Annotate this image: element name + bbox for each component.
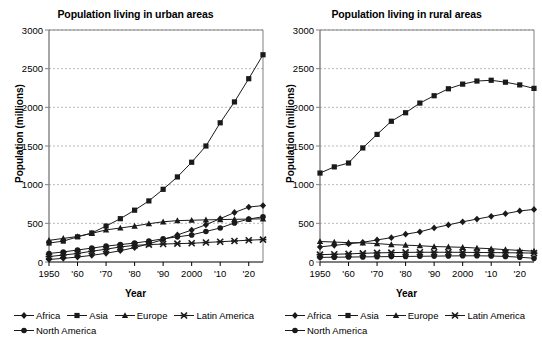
legend-label-latin-america: Latin America <box>467 308 525 323</box>
legend-row-2: North America <box>14 323 270 338</box>
legend-label-asia: Asia <box>360 308 378 323</box>
legend-row-1: Africa Asia Europe Latin America <box>14 308 270 323</box>
triangle-icon <box>386 310 406 321</box>
svg-text:500: 500 <box>298 218 314 229</box>
svg-text:2000: 2000 <box>452 268 473 279</box>
svg-text:'10: '10 <box>214 268 226 279</box>
legend-item-asia: Asia <box>67 308 107 323</box>
legend-label-asia: Asia <box>89 308 107 323</box>
svg-text:'20: '20 <box>243 268 255 279</box>
legend-label-europe: Europe <box>137 308 168 323</box>
plot-area-rural: 0500100015002000250030001950'60'70'80'90… <box>271 0 542 290</box>
cross-x-icon <box>445 310 465 321</box>
legend-item-europe: Europe <box>386 308 439 323</box>
legend-label-europe: Europe <box>408 308 439 323</box>
svg-text:'60: '60 <box>342 268 354 279</box>
svg-text:2500: 2500 <box>293 63 314 74</box>
svg-text:'70: '70 <box>100 268 112 279</box>
legend-item-europe: Europe <box>115 308 168 323</box>
svg-text:3000: 3000 <box>293 25 314 36</box>
legend-item-asia: Asia <box>338 308 378 323</box>
cross-x-icon <box>174 310 194 321</box>
svg-text:1950: 1950 <box>309 268 330 279</box>
legend-label-africa: Africa <box>36 308 60 323</box>
plot-area-urban: 0500100015002000250030001950'60'70'80'90… <box>0 0 271 290</box>
svg-text:500: 500 <box>27 218 43 229</box>
legend-item-latin-america: Latin America <box>174 308 254 323</box>
diamond-icon <box>285 310 305 321</box>
svg-text:1950: 1950 <box>38 268 59 279</box>
legend-row-1: Africa Asia Europe Latin America <box>285 308 541 323</box>
svg-text:2500: 2500 <box>22 63 43 74</box>
svg-text:'80: '80 <box>128 268 140 279</box>
chart-page: Population living in urban areas Populat… <box>0 0 542 349</box>
svg-text:'90: '90 <box>157 268 169 279</box>
legend-item-africa: Africa <box>14 308 60 323</box>
chart-panel-urban: Population living in urban areas Populat… <box>0 0 271 349</box>
svg-text:1500: 1500 <box>22 141 43 152</box>
legend-label-africa: Africa <box>307 308 331 323</box>
legend-item-north-america: North America <box>285 323 367 338</box>
svg-text:'80: '80 <box>399 268 411 279</box>
svg-text:2000: 2000 <box>293 102 314 113</box>
legend-label-latin-america: Latin America <box>196 308 254 323</box>
legend-item-latin-america: Latin America <box>445 308 525 323</box>
svg-text:'60: '60 <box>71 268 83 279</box>
square-icon <box>67 310 87 321</box>
svg-text:2000: 2000 <box>181 268 202 279</box>
svg-text:'10: '10 <box>485 268 497 279</box>
svg-text:'70: '70 <box>371 268 383 279</box>
legend-label-north-america: North America <box>307 323 367 338</box>
circle-icon <box>14 325 34 336</box>
legend-rural: Africa Asia Europe Latin America <box>285 308 541 338</box>
svg-text:0: 0 <box>309 257 314 268</box>
svg-text:3000: 3000 <box>22 25 43 36</box>
legend-label-north-america: North America <box>36 323 96 338</box>
x-axis-label-rural: Year <box>271 288 542 299</box>
svg-text:0: 0 <box>38 257 43 268</box>
chart-panel-rural: Population living in rural areas Populat… <box>271 0 542 349</box>
diamond-icon <box>14 310 34 321</box>
legend-row-2: North America <box>285 323 541 338</box>
triangle-icon <box>115 310 135 321</box>
svg-text:1000: 1000 <box>293 179 314 190</box>
svg-text:'90: '90 <box>428 268 440 279</box>
legend-item-africa: Africa <box>285 308 331 323</box>
svg-text:1500: 1500 <box>293 141 314 152</box>
svg-text:2000: 2000 <box>22 102 43 113</box>
square-icon <box>338 310 358 321</box>
legend-urban: Africa Asia Europe Latin America <box>14 308 270 338</box>
svg-text:'20: '20 <box>514 268 526 279</box>
circle-icon <box>285 325 305 336</box>
svg-text:1000: 1000 <box>22 179 43 190</box>
x-axis-label-urban: Year <box>0 288 271 299</box>
legend-item-north-america: North America <box>14 323 96 338</box>
